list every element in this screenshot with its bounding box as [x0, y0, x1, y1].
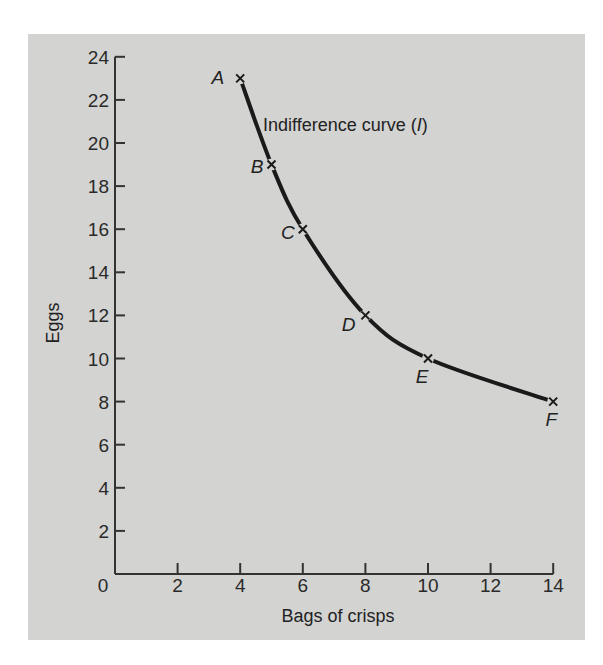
- point-label: A: [211, 67, 225, 88]
- y-tick-label: 12: [88, 305, 109, 326]
- curve-annotation-prefix: Indifference curve (: [263, 115, 417, 135]
- y-tick-label: 10: [88, 349, 109, 370]
- y-tick-label: 22: [88, 90, 109, 111]
- x-tick-label: 2: [172, 575, 183, 596]
- x-tick-label: 0: [98, 575, 109, 596]
- data-point-f: F: [545, 396, 559, 430]
- curve-annotation-suffix: ): [422, 115, 428, 135]
- y-axis-label: Eggs: [43, 302, 63, 343]
- y-tick-label: 18: [88, 176, 109, 197]
- x-tick-label: 8: [360, 575, 371, 596]
- y-tick-label: 6: [98, 435, 109, 456]
- x-tick-label: 12: [480, 575, 501, 596]
- point-label: B: [251, 156, 264, 177]
- x-tick-label: 4: [235, 575, 246, 596]
- y-tick-label: 4: [98, 478, 109, 499]
- curve-annotation: Indifference curve (I): [263, 115, 428, 135]
- y-tick-label: 20: [88, 133, 109, 154]
- point-label: E: [416, 366, 429, 387]
- y-tick-label: 24: [88, 47, 110, 68]
- y-tick-label: 8: [98, 392, 109, 413]
- x-axis-label: Bags of crisps: [281, 606, 394, 626]
- indifference-curve-chart: 0246810121424681012141618202224 ABCDEF B…: [0, 0, 603, 665]
- y-tick-label: 16: [88, 219, 109, 240]
- data-point-c: C: [281, 222, 309, 243]
- x-tick-label: 6: [298, 575, 309, 596]
- y-tick-label: 14: [88, 262, 110, 283]
- x-tick-label: 14: [543, 575, 565, 596]
- point-label: D: [342, 314, 356, 335]
- y-tick-label: 2: [98, 521, 109, 542]
- data-point-d: D: [342, 309, 372, 335]
- data-point-e: E: [416, 353, 434, 387]
- x-tick-label: 10: [417, 575, 438, 596]
- point-label: F: [545, 409, 558, 430]
- point-label: C: [281, 222, 295, 243]
